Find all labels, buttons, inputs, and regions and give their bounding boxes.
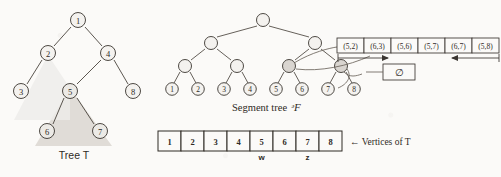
segment-tree-leaf-5-label: 5 [274,85,278,94]
tree-node-5-label: 5 [68,87,72,97]
pair-box-5-label: (5,8) [478,42,493,51]
segment-tree-leaf-7-label: 7 [326,85,330,94]
segment-tree-caption-symbol: ᵊF [291,101,301,113]
tree-node-6-label: 6 [45,127,49,137]
vertices-cell-0-label: 1 [167,137,171,147]
pair-box-3-label: (5,7) [424,42,439,51]
tree-edge-1-2 [54,27,71,46]
segment-tree-leaf-1: 1 [166,83,179,96]
segment-tree-leaf-4: 4 [244,83,257,96]
pair-boxes-row: (5,2) (6,3) (5,6) (5,7) (6,7) (5,8) [337,38,499,53]
segment-tree-leaf-3: 3 [218,83,231,96]
tree-node-8: 8 [126,84,141,99]
segment-tree-internal-nodes [179,14,348,73]
segment-tree-edges [174,26,352,83]
segment-tree-caption: Segment tree ᵊF [232,101,301,113]
pair-box-1-label: (6,3) [370,42,385,51]
segment-tree-leaf-6-label: 6 [300,85,304,94]
segment-tree-leaves: 1 2 3 4 5 6 7 [166,83,361,96]
figure-canvas: 1 2 4 3 5 8 6 [0,0,501,177]
segment-tree-marked-node-1 [283,60,296,73]
vertices-cell-1-label: 2 [190,137,194,147]
tree-node-1-label: 1 [76,16,80,26]
segment-tree-leaf-3-label: 3 [222,85,226,94]
segment-tree-leaf-8-label: 8 [352,85,356,94]
tree-node-6: 6 [40,124,55,139]
segment-tree-leaf-6: 6 [296,83,309,96]
tree-node-1: 1 [71,13,86,28]
empty-set-box-group: ∅ [366,64,415,80]
pair-box-0-label: (5,2) [343,42,358,51]
segment-tree-leaf-5: 5 [270,83,283,96]
segment-tree-leaf-1-label: 1 [170,85,174,94]
segment-tree-leaf-4-label: 4 [248,85,252,94]
segment-tree-leaf-2-label: 2 [196,85,200,94]
vertices-array: 1 2 3 4 5 6 7 8 w z ← Vertices of T [158,131,411,162]
segment-tree-root [257,14,270,27]
tree-node-5: 5 [63,84,78,99]
vertices-of-t-label: ← Vertices of T [350,137,411,147]
segment-tree-leaf-7: 7 [322,83,335,96]
tree-node-2-label: 2 [46,49,50,59]
tree-node-7-label: 7 [98,127,102,137]
tree-node-7: 7 [93,124,108,139]
vertices-cell-4-label: 5 [259,137,263,147]
tree-node-2: 2 [41,46,56,61]
tree-node-4: 4 [101,46,116,61]
pair-range-indicators [338,54,499,62]
tree-node-3: 3 [14,84,29,99]
segment-tree-caption-text: Segment tree [232,102,287,113]
tree-node-3-label: 3 [19,87,23,97]
segment-tree-leaf-8: 8 [348,83,361,96]
pair-box-4-label: (6,7) [451,42,466,51]
tree-edge-4-8 [114,60,128,84]
figure-segment-tree: 1 2 4 3 5 8 6 [0,0,501,177]
vertices-marker-z: z [306,153,310,162]
tree-t-caption: Tree T [59,149,90,161]
vertices-cell-2-label: 3 [213,137,217,147]
vertices-cell-7-label: 8 [328,137,332,147]
tree-node-8-label: 8 [131,87,135,97]
vertices-marker-w: w [257,153,265,162]
empty-set-symbol: ∅ [395,67,404,78]
pair-box-2-label: (5,6) [397,42,412,51]
segment-tree-leaf-2: 2 [192,83,205,96]
vertices-cell-5-label: 6 [282,137,286,147]
tree-edge-1-4 [85,27,102,46]
tree-edge-4-5 [77,60,101,84]
